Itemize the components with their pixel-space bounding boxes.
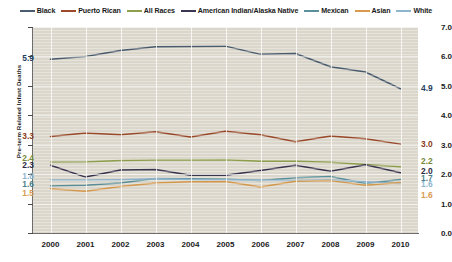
vertical-gridline <box>296 27 297 233</box>
y-tick-mark <box>28 233 33 234</box>
y-tick-label: 4.0 <box>424 111 452 120</box>
vertical-gridline <box>51 27 52 233</box>
x-axis-line <box>32 233 419 234</box>
y-tick-label: 7.0 <box>424 23 452 32</box>
legend-item-label: Asian <box>372 7 391 15</box>
legend-item-white[interactable]: White <box>393 7 435 15</box>
legend-item-label: Mexican <box>321 7 348 15</box>
y-tick-label: 0.0 <box>424 229 452 238</box>
end-value-label-black: 4.9 <box>421 83 433 93</box>
x-tick-label: 2010 <box>381 240 421 249</box>
x-tick-label: 2009 <box>346 240 386 249</box>
legend-item-american-indian-alaska-native[interactable]: American Indian/Alaska Native <box>178 7 301 15</box>
legend-item-label: American Indian/Alaska Native <box>198 7 298 15</box>
legend-item-black[interactable]: Black <box>17 7 58 15</box>
end-value-label-asian: 1.6 <box>421 190 433 200</box>
vertical-gridline <box>331 27 332 233</box>
end-value-label-white: 1.6 <box>421 179 433 189</box>
x-tick-label: 2006 <box>241 240 281 249</box>
legend-item-label: All Races <box>144 7 175 15</box>
legend-swatch-icon <box>396 10 411 12</box>
vertical-gridline <box>121 27 122 233</box>
legend-swatch-icon <box>127 10 142 12</box>
legend-item-label: Black <box>37 7 55 15</box>
x-tick-label: 2004 <box>171 240 211 249</box>
end-value-label-puerto-rican: 3.0 <box>421 139 433 149</box>
legend-swatch-icon <box>304 10 319 12</box>
legend-swatch-icon <box>20 10 35 12</box>
vertical-gridline <box>366 27 367 233</box>
legend-swatch-icon <box>61 10 76 12</box>
chart-legend: BlackPuerto RicanAll RacesAmerican India… <box>0 4 452 18</box>
vertical-gridline <box>86 27 87 233</box>
x-tick-label: 2005 <box>206 240 246 249</box>
legend-item-label: White <box>413 7 432 15</box>
vertical-gridline <box>156 27 157 233</box>
start-value-label-asian: 1.5 <box>4 188 34 198</box>
legend-swatch-icon <box>355 10 370 12</box>
x-tick-label: 2007 <box>276 240 316 249</box>
start-value-label-white: 1.8 <box>4 171 34 181</box>
legend-item-puerto-rican[interactable]: Puerto Rican <box>58 7 124 15</box>
vertical-gridline <box>401 27 402 233</box>
start-value-label-american-indian-alaska-native: 2.3 <box>4 160 34 170</box>
legend-item-mexican[interactable]: Mexican <box>301 7 351 15</box>
end-value-label-all-races: 2.2 <box>421 156 433 166</box>
x-tick-label: 2002 <box>101 240 141 249</box>
line-chart: BlackPuerto RicanAll RacesAmerican India… <box>0 0 452 262</box>
vertical-gridline <box>191 27 192 233</box>
start-value-label-black: 5.9 <box>4 53 34 63</box>
x-tick-label: 2003 <box>136 240 176 249</box>
vertical-gridline <box>261 27 262 233</box>
start-value-label-puerto-rican: 3.3 <box>4 131 34 141</box>
y-tick-label: 1.0 <box>424 200 452 209</box>
vertical-gridline <box>226 27 227 233</box>
plot-area <box>33 27 418 233</box>
x-tick-label: 2008 <box>311 240 351 249</box>
legend-item-label: Puerto Rican <box>78 7 121 15</box>
x-tick-label: 2000 <box>31 240 71 249</box>
y-tick-label: 6.0 <box>424 52 452 61</box>
legend-item-asian[interactable]: Asian <box>352 7 394 15</box>
x-tick-label: 2001 <box>66 240 106 249</box>
legend-item-all-races[interactable]: All Races <box>124 7 178 15</box>
legend-swatch-icon <box>181 10 196 12</box>
